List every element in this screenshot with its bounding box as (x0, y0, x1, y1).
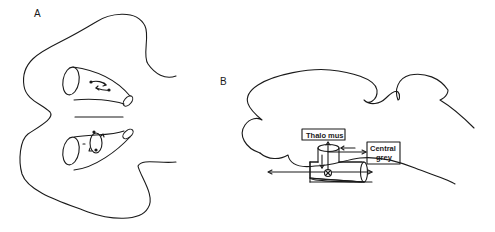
panel-a-outline (20, 14, 176, 218)
central-grey-label-line2: grey (376, 153, 393, 162)
panel-b-outline (242, 70, 474, 153)
dot-icon (92, 130, 95, 133)
panel-b-label: B (220, 76, 227, 87)
thalamus-label: Thalo mus (306, 131, 344, 140)
panel-a-label: A (34, 8, 41, 19)
central-grey-label-line1: Central (370, 144, 396, 153)
lower-horn (61, 127, 135, 170)
panel-b: B (220, 70, 474, 184)
dot-icon (94, 148, 97, 151)
upper-horn (61, 66, 135, 108)
panel-a: A (20, 8, 176, 218)
t-tube (268, 142, 372, 182)
figure-canvas: A (0, 0, 495, 232)
